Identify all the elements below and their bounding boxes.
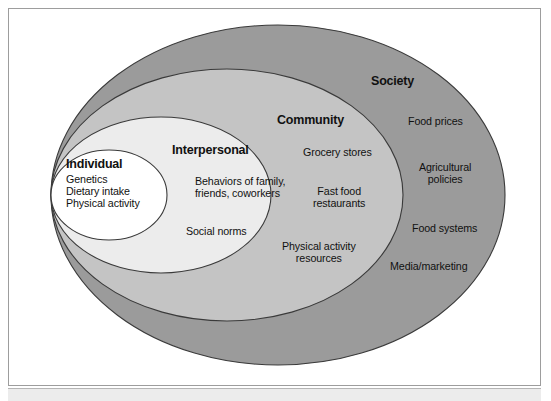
ring-item-society-food-systems: Food systems — [412, 222, 477, 234]
ring-title-individual: Individual — [66, 157, 122, 171]
ring-item-society-agricultural-policies: Agricultural policies — [419, 161, 471, 185]
figure-canvas: Society Food prices Agricultural policie… — [0, 0, 551, 401]
ring-item-community-grocery-stores: Grocery stores — [303, 146, 372, 158]
footer-strip — [8, 388, 541, 401]
ring-item-society-media-marketing: Media/marketing — [390, 260, 468, 272]
ring-item-society-food-prices: Food prices — [408, 115, 463, 127]
ring-item-community-physical-activity-resources: Physical activity resources — [282, 240, 356, 264]
ring-title-society: Society — [371, 74, 414, 88]
ring-item-community-fast-food-restaurants: Fast food restaurants — [313, 185, 365, 209]
ring-item-interpersonal-behaviors: Behaviors of family, friends, coworkers — [195, 175, 285, 199]
ring-title-community: Community — [277, 113, 344, 127]
ring-item-interpersonal-social-norms: Social norms — [186, 225, 247, 237]
ring-item-individual-list: Genetics Dietary intake Physical activit… — [66, 173, 140, 210]
ring-title-interpersonal: Interpersonal — [172, 143, 249, 157]
